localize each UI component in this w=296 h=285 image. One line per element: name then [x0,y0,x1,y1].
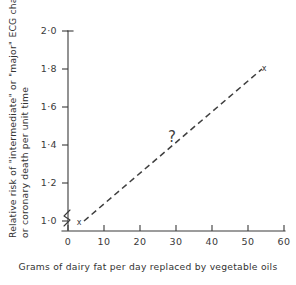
chart-figure: x x ? 2·0 1·8 1·6 1·4 1·2 1·0 0 10 20 30… [0,0,296,285]
y-tick-label-1-0: 1·0 [41,215,57,226]
y-tick-label-1-4: 1·4 [41,139,57,150]
data-point-marker-question: ? [168,128,176,146]
data-point-marker-x-high: x [262,64,267,73]
x-tick-label-30: 30 [170,236,183,247]
y-axis-title: Relative risk of "intermediate" or "majo… [0,0,36,250]
x-tick-labels: 0 10 20 30 40 50 60 [65,236,291,247]
x-tick-label-10: 10 [98,236,111,247]
x-tick-label-60: 60 [278,236,291,247]
x-tick-marks [68,225,284,231]
chart-plot-area: x x ? 2·0 1·8 1·6 1·4 1·2 1·0 0 10 20 30… [0,0,296,285]
y-tick-labels: 2·0 1·8 1·6 1·4 1·2 1·0 [41,25,57,226]
x-tick-label-50: 50 [242,236,255,247]
x-axis-title: Grams of dairy fat per day replaced by v… [0,261,296,272]
data-point-marker-x-low: x [77,218,82,227]
y-tick-label-1-8: 1·8 [41,63,57,74]
x-tick-label-20: 20 [134,236,147,247]
y-tick-label-1-2: 1·2 [41,177,57,188]
y-tick-label-2-0: 2·0 [41,25,57,36]
x-tick-label-0: 0 [65,236,71,247]
y-tick-label-1-6: 1·6 [41,101,57,112]
x-tick-label-40: 40 [206,236,219,247]
y-axis-break-icon [64,210,70,226]
y-tick-marks [62,31,68,221]
